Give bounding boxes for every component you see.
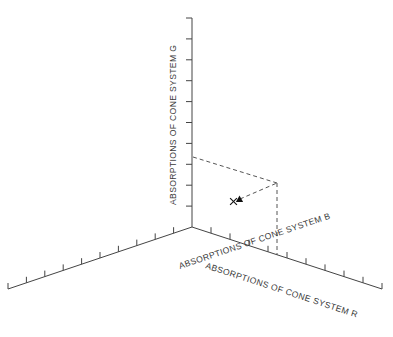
g-axis-to-vertex (193, 157, 277, 183)
axis-b-ticks (8, 227, 174, 289)
axis-b-label: ABSORPTIONS OF CONE SYSTEM B (177, 211, 331, 271)
axis-labels: ABSORPTIONS OF CONE SYSTEM G ABSORPTIONS… (168, 45, 359, 320)
axis-r-label: ABSORPTIONS OF CONE SYSTEM R (204, 260, 359, 319)
axis-g-label: ABSORPTIONS OF CONE SYSTEM G (168, 45, 178, 205)
data-markers (230, 195, 243, 205)
cone-system-absorption-diagram: ABSORPTIONS OF CONE SYSTEM G ABSORPTIONS… (0, 0, 393, 337)
cross-marker (230, 198, 237, 205)
marker-to-vertex (240, 183, 277, 199)
axis-lines (8, 18, 382, 289)
axis-g-ticks (186, 18, 192, 206)
figure-root: ABSORPTIONS OF CONE SYSTEM G ABSORPTIONS… (0, 0, 393, 337)
